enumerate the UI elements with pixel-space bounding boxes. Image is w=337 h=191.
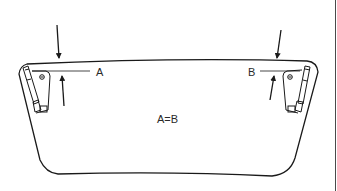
measurement-label-a: A <box>96 67 103 78</box>
measurement-label-b: B <box>248 67 255 78</box>
sun-visor-diagram <box>0 0 337 191</box>
page-edge-divider <box>335 0 336 191</box>
arrow-up-left <box>62 76 64 106</box>
equality-label: A=B <box>157 114 178 125</box>
arrow-down-right <box>277 30 281 58</box>
right-bracket <box>283 66 310 113</box>
arrow-up-right <box>270 76 274 100</box>
arrow-down-left <box>57 25 59 58</box>
